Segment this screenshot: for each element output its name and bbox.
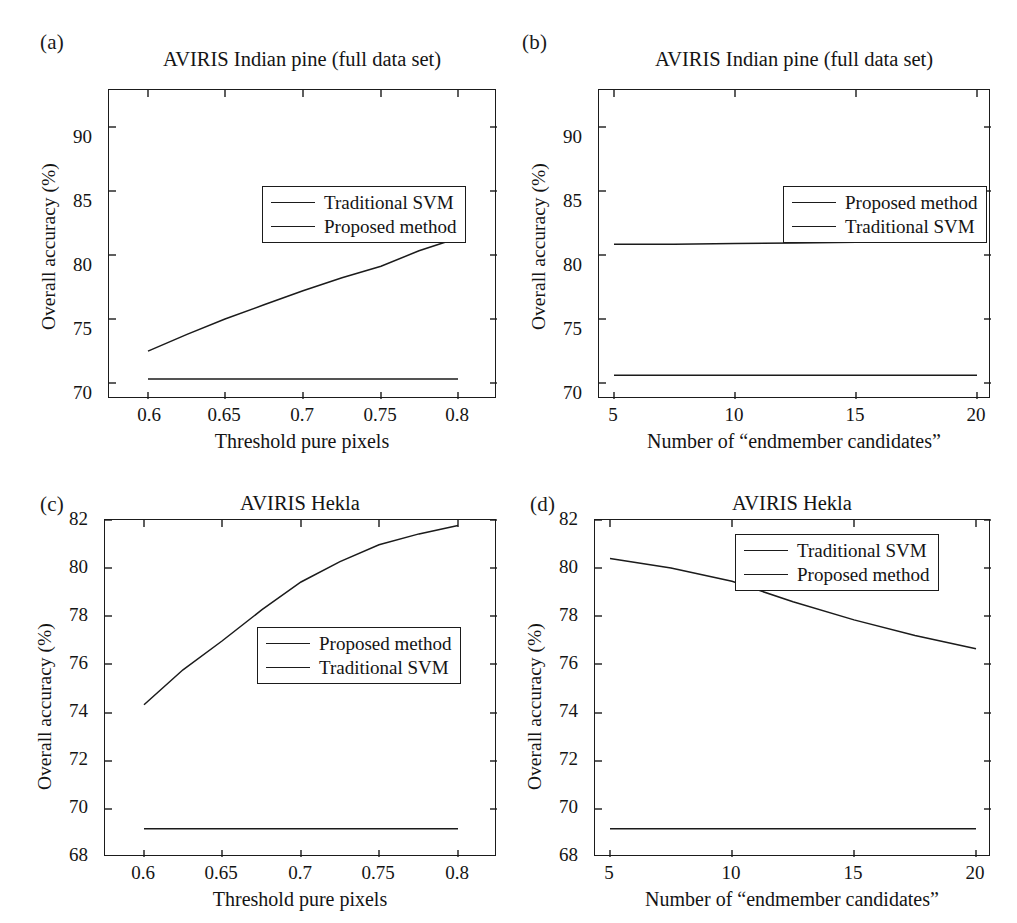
panel-a-plot-area: Traditional SVM Proposed method — [108, 89, 496, 398]
panel-a-legend-label-1: Proposed method — [324, 217, 456, 236]
panel-d-ytick-78: 78 — [534, 604, 578, 626]
panel-a-xtick-2: 0.7 — [272, 404, 332, 426]
panel-c-plot-area: Proposed method Traditional SVM — [104, 519, 496, 856]
panel-c-legend-row-traditional-svm: Traditional SVM — [266, 655, 451, 679]
legend-line-icon — [744, 550, 788, 551]
panel-c-ytick-76: 76 — [44, 652, 88, 674]
panel-d-ytick-70: 70 — [534, 796, 578, 818]
panel-c-title: AVIRIS Hekla — [104, 492, 496, 515]
panel-c-ytick-78: 78 — [44, 604, 88, 626]
panel-b-ytick-80: 80 — [538, 254, 582, 276]
panel-d-ytick-74: 74 — [534, 700, 578, 722]
panel-d-ytick-80: 80 — [534, 556, 578, 578]
panel-c-ytick-80: 80 — [44, 556, 88, 578]
panel-b-legend-label-1: Traditional SVM — [845, 217, 975, 236]
panel-b-ytick-75: 75 — [538, 318, 582, 340]
panel-d-legend: Traditional SVM Proposed method — [735, 534, 939, 591]
panel-b-plot-area: Proposed method Traditional SVM — [598, 89, 990, 398]
figure-root: (a) AVIRIS Indian pine (full data set) O… — [0, 0, 1017, 923]
panel-d-legend-row-traditional-svm: Traditional SVM — [744, 538, 929, 562]
panel-c-legend-row-proposed-method: Proposed method — [266, 631, 451, 655]
panel-d-xtick-0: 5 — [579, 862, 639, 884]
panel-c-xtick-4: 0.8 — [427, 862, 487, 884]
panel-d-ytick-76: 76 — [534, 652, 578, 674]
panel-a-legend-label-0: Traditional SVM — [324, 193, 454, 212]
panel-c-ticks — [105, 520, 497, 857]
panel-a-ytick-70: 70 — [48, 382, 92, 404]
panel-a-xtick-1: 0.65 — [194, 404, 254, 426]
panel-a-legend: Traditional SVM Proposed method — [262, 186, 466, 243]
panel-a-legend-row-proposed-method: Proposed method — [271, 214, 456, 238]
panel-a-xtick-3: 0.75 — [350, 404, 410, 426]
legend-line-icon — [266, 667, 310, 668]
panel-d-ytick-82: 82 — [534, 508, 578, 530]
panel-c-ytick-82: 82 — [44, 508, 88, 530]
panel-d-ytick-68: 68 — [534, 844, 578, 866]
legend-line-icon — [271, 226, 315, 227]
panel-c-xtick-0: 0.6 — [113, 862, 173, 884]
panel-c-legend-label-0: Proposed method — [319, 634, 451, 653]
panel-d-xtick-2: 15 — [823, 862, 883, 884]
panel-c-xtick-1: 0.65 — [191, 862, 251, 884]
panel-c-ytick-72: 72 — [44, 748, 88, 770]
panel-b-ytick-70: 70 — [538, 382, 582, 404]
panel-c-ytick-68: 68 — [44, 844, 88, 866]
panel-b-ytick-85: 85 — [538, 190, 582, 212]
panel-b-legend: Proposed method Traditional SVM — [783, 186, 987, 243]
panel-a-ytick-85: 85 — [48, 190, 92, 212]
panel-a-xtick-0: 0.6 — [119, 404, 179, 426]
panel-a-series-proposed-method — [148, 238, 458, 351]
panel-a-ytick-75: 75 — [48, 318, 92, 340]
panel-b-legend-label-0: Proposed method — [845, 193, 977, 212]
panel-b-title: AVIRIS Indian pine (full data set) — [598, 48, 990, 71]
panel-a-plot-svg — [109, 90, 497, 399]
panel-b-tag: (b) — [522, 30, 547, 55]
panel-b-legend-row-traditional-svm: Traditional SVM — [792, 214, 977, 238]
panel-c-legend: Proposed method Traditional SVM — [257, 627, 461, 684]
panel-b-ytick-90: 90 — [538, 126, 582, 148]
panel-c-legend-label-1: Traditional SVM — [319, 658, 449, 677]
panel-b-xtick-3: 20 — [946, 404, 1006, 426]
panel-b-xtick-1: 10 — [704, 404, 764, 426]
panel-d-plot-area: Traditional SVM Proposed method — [594, 519, 990, 856]
panel-a-title: AVIRIS Indian pine (full data set) — [108, 48, 496, 71]
panel-b-xtick-2: 15 — [825, 404, 885, 426]
panel-b-xlabel: Number of “endmember candidates” — [598, 430, 990, 453]
legend-line-icon — [744, 574, 788, 575]
legend-line-icon — [792, 226, 836, 227]
panel-c-xtick-2: 0.7 — [270, 862, 330, 884]
legend-line-icon — [792, 202, 836, 203]
panel-d-xtick-1: 10 — [701, 862, 761, 884]
panel-a-tag: (a) — [40, 30, 64, 55]
panel-d-legend-row-proposed-method: Proposed method — [744, 562, 929, 586]
panel-d-title: AVIRIS Hekla — [594, 492, 990, 515]
legend-line-icon — [266, 643, 310, 644]
panel-a-ytick-90: 90 — [48, 126, 92, 148]
panel-d-legend-label-0: Traditional SVM — [797, 541, 927, 560]
panel-b-xtick-0: 5 — [583, 404, 643, 426]
panel-b-ylabel: Overall accuracy (%) — [528, 163, 550, 330]
panel-b-plot-svg — [599, 90, 991, 399]
panel-d-xtick-3: 20 — [945, 862, 1005, 884]
panel-a-xtick-4: 0.8 — [427, 404, 487, 426]
panel-a-legend-row-traditional-svm: Traditional SVM — [271, 190, 456, 214]
panel-d-ytick-72: 72 — [534, 748, 578, 770]
panel-c-ytick-70: 70 — [44, 796, 88, 818]
legend-line-icon — [271, 202, 315, 203]
panel-c-ytick-74: 74 — [44, 700, 88, 722]
panel-c-xtick-3: 0.75 — [348, 862, 408, 884]
panel-c-plot-svg — [105, 520, 497, 857]
panel-d-legend-label-1: Proposed method — [797, 565, 929, 584]
panel-b-legend-row-proposed-method: Proposed method — [792, 190, 977, 214]
panel-a-ylabel: Overall accuracy (%) — [38, 163, 60, 330]
panel-a-xlabel: Threshold pure pixels — [108, 430, 496, 453]
panel-c-xlabel: Threshold pure pixels — [104, 888, 496, 911]
panel-d-xlabel: Number of “endmember candidates” — [594, 888, 990, 911]
panel-a-ytick-80: 80 — [48, 254, 92, 276]
